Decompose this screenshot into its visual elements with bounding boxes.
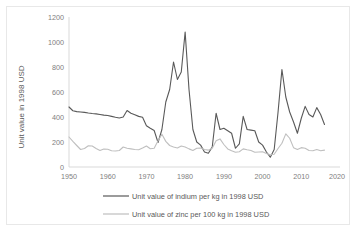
line-chart: Unit value in 1998 USD 1200 1000 800 600… — [7, 7, 351, 226]
x-tick-label-1950: 1950 — [61, 172, 77, 181]
x-tick-label-1990: 1990 — [216, 172, 232, 181]
legend-label-zinc: Unit value of zinc per 100 kg in 1998 US… — [132, 210, 269, 219]
y-tick-label-200: 200 — [52, 138, 64, 147]
x-tick-label-2020: 2020 — [329, 172, 345, 181]
y-tick-label-600: 600 — [52, 88, 64, 97]
x-tick-label-1980: 1980 — [177, 172, 193, 181]
x-tick-label-2000: 2000 — [255, 172, 271, 181]
x-tick-label-1960: 1960 — [100, 172, 116, 181]
series-line-zinc — [69, 134, 325, 155]
y-tick-label-800: 800 — [52, 63, 64, 72]
y-tick-label-1200: 1200 — [48, 13, 64, 22]
legend-label-indium: Unit value of indium per kg in 1998 USD — [132, 192, 263, 201]
chart-screenshot: Unit value in 1998 USD 1200 1000 800 600… — [0, 0, 357, 232]
y-tick-label-0: 0 — [60, 163, 64, 172]
x-tick-label-1970: 1970 — [138, 172, 154, 181]
series-line-indium — [69, 32, 325, 157]
chart-frame: Unit value in 1998 USD 1200 1000 800 600… — [6, 6, 350, 225]
y-axis-title: Unit value in 1998 USD — [17, 65, 26, 148]
y-tick-label-400: 400 — [52, 113, 64, 122]
y-tick-label-1000: 1000 — [48, 38, 64, 47]
x-tick-label-2010: 2010 — [293, 172, 309, 181]
